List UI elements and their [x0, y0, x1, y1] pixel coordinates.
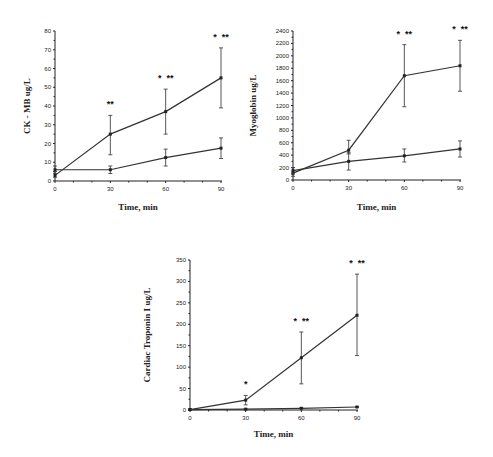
series-line-group-b: [293, 149, 460, 171]
significance-marker: * **: [158, 73, 174, 83]
y-tick-label: 80: [44, 28, 51, 34]
x-tick-label: 0: [53, 186, 57, 192]
x-tick-label: 60: [298, 415, 305, 421]
y-tick-label: 800: [279, 127, 290, 133]
myoglobin-chart: 0200400600800100012001400160018002000220…: [248, 24, 468, 212]
y-tick-label: 200: [176, 321, 187, 327]
y-tick-label: 2000: [276, 53, 290, 59]
y-tick-label: 30: [44, 122, 51, 128]
y-tick-label: 1400: [276, 90, 290, 96]
significance-marker: * **: [452, 24, 468, 34]
ck-mb-chart: 010203040506070800306090Time, minCK - MB…: [22, 28, 229, 212]
data-point: [347, 149, 350, 152]
y-tick-label: 200: [279, 165, 290, 171]
data-point: [459, 64, 462, 67]
y-tick-label: 0: [286, 177, 290, 183]
data-point: [54, 174, 57, 177]
y-tick-label: 600: [279, 140, 290, 146]
data-point: [109, 168, 112, 171]
data-point: [109, 133, 112, 136]
series-line-group-a: [293, 66, 460, 173]
y-tick-label: 1200: [276, 103, 290, 109]
data-point: [356, 406, 359, 409]
y-axis-title: CK - MB ug/L: [22, 78, 32, 134]
significance-marker: **: [107, 99, 115, 109]
y-tick-label: 2200: [276, 40, 290, 46]
y-tick-label: 50: [44, 84, 51, 90]
data-point: [292, 169, 295, 172]
data-point: [189, 408, 192, 411]
data-point: [54, 168, 57, 171]
data-point: [164, 110, 167, 113]
x-tick-label: 30: [107, 186, 114, 192]
data-point: [356, 314, 359, 317]
y-tick-label: 1800: [276, 65, 290, 71]
series-line-group-b: [190, 407, 357, 410]
y-axis-title: Cardiac Troponin I ug/L: [142, 288, 152, 383]
significance-marker: * **: [294, 316, 310, 326]
data-point: [403, 74, 406, 77]
x-axis-title: Time, min: [254, 429, 293, 439]
figure: 010203040506070800306090Time, minCK - MB…: [0, 0, 493, 457]
data-point: [300, 407, 303, 410]
x-tick-label: 90: [457, 185, 464, 191]
y-tick-label: 150: [176, 343, 187, 349]
y-tick-label: 1600: [276, 78, 290, 84]
data-point: [459, 147, 462, 150]
x-tick-label: 90: [354, 415, 361, 421]
y-tick-label: 350: [176, 257, 187, 263]
x-tick-label: 0: [291, 185, 295, 191]
x-tick-label: 60: [401, 185, 408, 191]
y-axis-title: Myoglobin ug/L: [248, 75, 258, 137]
y-tick-label: 250: [176, 300, 187, 306]
x-tick-label: 60: [162, 186, 169, 192]
troponin-chart: 0501001502002503003500306090Time, minCar…: [142, 257, 365, 439]
x-axis-title: Time, min: [357, 202, 396, 212]
y-tick-label: 400: [279, 152, 290, 158]
y-tick-label: 70: [44, 47, 51, 53]
significance-marker: * **: [349, 258, 365, 268]
y-tick-label: 20: [44, 141, 51, 147]
significance-marker: *: [244, 379, 248, 389]
x-tick-label: 0: [188, 415, 192, 421]
y-tick-label: 10: [44, 159, 51, 165]
data-point: [244, 399, 247, 402]
x-tick-label: 90: [218, 186, 225, 192]
series-line-group-a: [55, 78, 221, 176]
data-point: [244, 408, 247, 411]
x-tick-label: 30: [242, 415, 249, 421]
y-tick-label: 300: [176, 278, 187, 284]
data-point: [347, 160, 350, 163]
data-point: [164, 156, 167, 159]
y-tick-label: 1000: [276, 115, 290, 121]
data-point: [220, 147, 223, 150]
y-tick-label: 2400: [276, 28, 290, 34]
series-line-group-b: [55, 148, 221, 170]
x-tick-label: 30: [345, 185, 352, 191]
y-tick-label: 100: [176, 364, 187, 370]
y-tick-label: 60: [44, 66, 51, 72]
series-line-group-a: [190, 315, 357, 409]
data-point: [220, 76, 223, 79]
y-tick-label: 0: [183, 407, 187, 413]
significance-marker: * **: [213, 32, 229, 42]
data-point: [403, 154, 406, 157]
data-point: [300, 356, 303, 359]
significance-marker: * **: [397, 29, 413, 39]
y-tick-label: 40: [44, 103, 51, 109]
y-tick-label: 0: [48, 178, 52, 184]
y-tick-label: 50: [179, 386, 186, 392]
x-axis-title: Time, min: [118, 202, 157, 212]
